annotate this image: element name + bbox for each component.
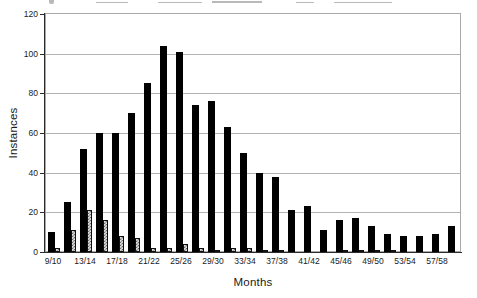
- bar-black-19-20: [128, 113, 135, 252]
- bar-hatched-45-46: [343, 250, 348, 252]
- bar-hatched-49-50: [375, 250, 380, 252]
- bar-hatched-17-18: [119, 236, 124, 252]
- bar-black-55-56: [416, 236, 423, 252]
- y-tick-label: 20: [10, 208, 38, 217]
- bar-hatched-21-22: [151, 248, 156, 252]
- x-tick-label: 49/50: [355, 256, 391, 266]
- bar-hatched-25-26: [183, 244, 188, 252]
- x-tick-label: 33/34: [227, 256, 263, 266]
- bar-black-59-60: [448, 226, 455, 252]
- gridline-100: [46, 54, 460, 55]
- bar-hatched-27-28: [199, 248, 204, 252]
- x-tick-label: 9/10: [35, 256, 71, 266]
- y-tick-120: [40, 14, 45, 15]
- bar-hatched-23-24: [167, 248, 172, 252]
- gridline-80: [46, 93, 460, 94]
- x-axis-title: Months: [45, 276, 461, 288]
- y-tick-label: 0: [10, 248, 38, 257]
- bar-hatched-9-10: [55, 248, 60, 252]
- bar-black-27-28: [192, 105, 199, 252]
- x-tick-label: 25/26: [163, 256, 199, 266]
- bar-hatched-51-52: [391, 250, 396, 252]
- y-tick-20: [40, 212, 45, 213]
- bar-black-25-26: [176, 52, 183, 252]
- x-tick-label: 41/42: [291, 256, 327, 266]
- bar-black-47-48: [352, 218, 359, 252]
- y-tick-label: 80: [10, 89, 38, 98]
- gridline-40: [46, 173, 460, 174]
- bar-hatched-33-34: [247, 248, 252, 252]
- bar-black-21-22: [144, 83, 151, 252]
- x-tick-label: 45/46: [323, 256, 359, 266]
- bar-black-11-12: [64, 202, 71, 252]
- bar-black-35-36: [256, 173, 263, 252]
- x-tick-label: 37/38: [259, 256, 295, 266]
- bar-black-57-58: [432, 234, 439, 252]
- bar-hatched-11-12: [71, 230, 76, 252]
- y-tick-100: [40, 54, 45, 55]
- bar-black-41-42: [304, 206, 311, 252]
- bar-black-37-38: [272, 177, 279, 252]
- bar-black-15-16: [96, 133, 103, 252]
- bar-hatched-47-48: [359, 250, 364, 252]
- y-tick-label: 40: [10, 169, 38, 178]
- gridline-60: [46, 133, 460, 134]
- gridline-20: [46, 212, 460, 213]
- bar-hatched-29-30: [215, 250, 220, 252]
- x-tick-label: 21/22: [131, 256, 167, 266]
- cropped-title-artifact: [0, 0, 477, 6]
- x-tick-label: 29/30: [195, 256, 231, 266]
- bar-black-29-30: [208, 101, 215, 252]
- y-tick-0: [40, 252, 45, 253]
- bar-black-39-40: [288, 210, 295, 252]
- bar-chart-figure: Instances 0204060801001209/1013/1417/182…: [0, 0, 477, 298]
- bar-hatched-37-38: [279, 250, 284, 252]
- y-tick-80: [40, 93, 45, 94]
- bar-black-17-18: [112, 133, 119, 252]
- x-tick-label: 53/54: [387, 256, 423, 266]
- bar-black-31-32: [224, 127, 231, 252]
- y-tick-label: 120: [10, 10, 38, 19]
- bar-black-13-14: [80, 149, 87, 252]
- x-tick-label: 13/14: [67, 256, 103, 266]
- bar-hatched-13-14: [87, 210, 92, 252]
- x-tick-label: 17/18: [99, 256, 135, 266]
- bar-black-23-24: [160, 46, 167, 252]
- y-tick-label: 100: [10, 50, 38, 59]
- bar-hatched-35-36: [263, 250, 268, 252]
- bar-black-49-50: [368, 226, 375, 252]
- bar-hatched-19-20: [135, 238, 140, 252]
- bar-hatched-15-16: [103, 220, 108, 252]
- bar-black-43-44: [320, 230, 327, 252]
- x-tick-label: 57/58: [419, 256, 455, 266]
- bar-black-9-10: [48, 232, 55, 252]
- bar-black-33-34: [240, 153, 247, 252]
- x-axis-line: [44, 252, 462, 253]
- bar-black-53-54: [400, 236, 407, 252]
- y-tick-60: [40, 133, 45, 134]
- y-tick-40: [40, 173, 45, 174]
- y-tick-label: 60: [10, 129, 38, 138]
- bar-black-51-52: [384, 234, 391, 252]
- bar-black-45-46: [336, 220, 343, 252]
- bar-hatched-31-32: [231, 248, 236, 252]
